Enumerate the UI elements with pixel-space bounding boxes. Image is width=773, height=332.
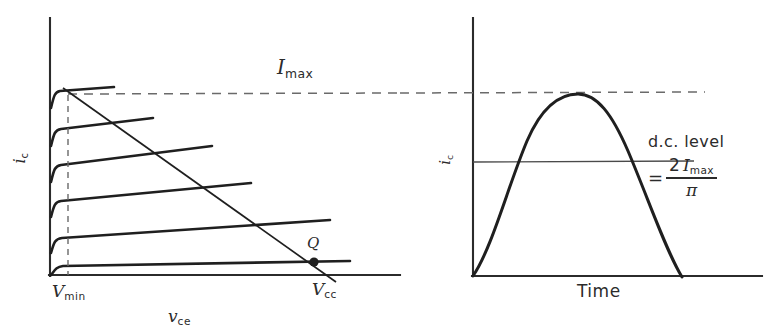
equals-sign: =: [648, 167, 663, 188]
dc-level-annotation: d.c. level = 2Imax π: [648, 132, 773, 200]
q-point-marker: [309, 257, 318, 266]
imax-label: Imax: [277, 57, 313, 77]
fraction: 2Imax π: [666, 155, 717, 200]
dc-level-text: d.c. level: [648, 132, 773, 151]
left-panel-group: [49, 18, 400, 282]
vcc-label: Vcc: [312, 281, 337, 298]
dc-level-equation: = 2Imax π: [648, 155, 773, 200]
right-x-axis-label: Time: [577, 283, 621, 300]
left-x-axis-label: vce: [168, 308, 191, 325]
characteristic-curve-1: [51, 87, 114, 108]
fraction-denominator: π: [686, 179, 697, 200]
figure-container: Imax ic Vmin Vcc vce Q ic Time d.c. leve…: [0, 0, 773, 332]
right-y-axis-label: ic: [438, 154, 453, 164]
load-line: [63, 88, 336, 282]
fraction-numerator: 2Imax: [666, 155, 717, 177]
q-point-label: Q: [307, 236, 319, 251]
characteristic-curve-6: [51, 261, 350, 275]
vmin-label: Vmin: [52, 283, 86, 300]
imax-dashed-level-left: [68, 93, 400, 94]
imax-dashed-level-right: [400, 92, 705, 93]
left-y-axis-label: ic: [12, 152, 28, 163]
